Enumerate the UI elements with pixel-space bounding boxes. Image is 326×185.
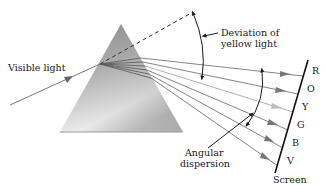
prism — [60, 24, 183, 132]
deviation-arc — [193, 13, 203, 78]
dispersion-arc — [247, 70, 263, 125]
spectrum-label-violet: V — [287, 156, 294, 166]
deviation-label-line1: Deviation of — [221, 28, 279, 38]
ray-arrowheads — [260, 71, 290, 160]
spectrum-label-red: R — [312, 66, 319, 76]
spectrum-label-blue: B — [292, 138, 299, 148]
prism-dispersion-diagram: Visible light Deviation of yellow light … — [0, 0, 326, 185]
dispersion-label-line2: dispersion — [180, 159, 230, 169]
visible-light-label: Visible light — [8, 63, 66, 73]
dispersion-label-line1: Angular — [185, 148, 223, 158]
spectrum-label-green: G — [297, 120, 305, 130]
spectrum-label-yellow: Y — [302, 102, 308, 112]
deviation-label-line2: yellow light — [221, 39, 277, 49]
deviation-pointer — [204, 33, 218, 36]
spectrum-label-orange: O — [307, 84, 315, 94]
screen-label: Screen — [273, 175, 307, 185]
